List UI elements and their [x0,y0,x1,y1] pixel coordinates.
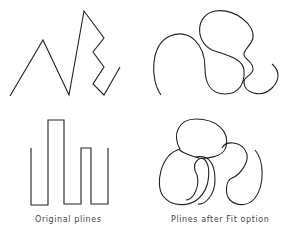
original-bars-pline [31,120,108,205]
fit-bars-curve [159,119,262,205]
caption-plines-after-fit: Plines after Fit option [171,215,269,224]
fit-zigzag-curve [154,11,278,95]
plines-diagram [0,0,292,236]
original-zigzag-pline [10,11,120,96]
caption-original-plines: Original plines [35,215,102,224]
